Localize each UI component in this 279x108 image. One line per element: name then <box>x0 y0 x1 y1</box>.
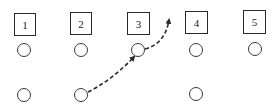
dashed-arrow-bottom2-to-top3 <box>88 57 134 92</box>
arrows-layer <box>0 0 279 108</box>
play-diagram: 1 2 3 4 5 <box>0 0 279 108</box>
dashed-arrow-top3-upfield <box>145 20 169 49</box>
